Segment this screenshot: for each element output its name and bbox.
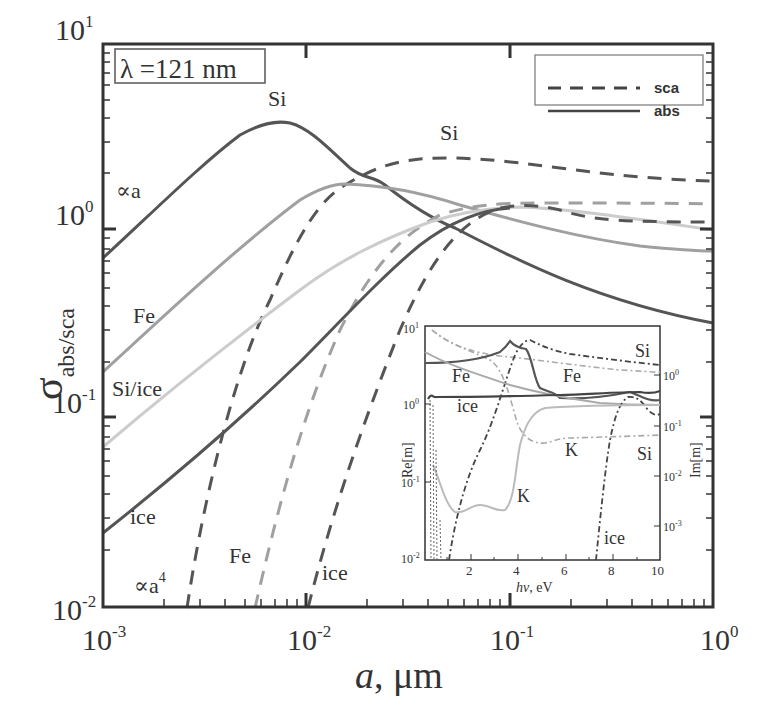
legend-abs-label: abs <box>654 102 680 119</box>
svg-text:101: 101 <box>55 12 94 46</box>
svg-text:ice: ice <box>604 528 625 548</box>
svg-text:4: 4 <box>513 563 520 578</box>
label-prop-a: ∝a <box>116 178 141 203</box>
legend-sca-label: sca <box>654 79 680 96</box>
svg-text:2: 2 <box>466 563 473 578</box>
svg-text:8: 8 <box>608 563 615 578</box>
svg-text:10-2: 10-2 <box>401 551 420 566</box>
label-si-abs: Si <box>268 86 286 111</box>
svg-text:10-1: 10-1 <box>490 622 534 656</box>
svg-text:10-3: 10-3 <box>82 622 126 656</box>
svg-text:6: 6 <box>561 563 568 578</box>
y-axis-title: σabs/sca <box>25 308 79 400</box>
label-ice-sca: ice <box>322 560 348 585</box>
label-si-ice: Si/ice <box>112 376 162 401</box>
svg-text:Si: Si <box>635 341 650 361</box>
inset-right-title: Im[m] <box>688 442 703 478</box>
svg-text:10: 10 <box>651 563 664 578</box>
svg-text:Fe: Fe <box>563 366 581 386</box>
svg-text:K: K <box>565 440 578 460</box>
x-axis-title: a, μm <box>355 654 443 696</box>
curve-labels: Si Si ∝a Fe Si/ice ice ∝a4 Fe ice <box>112 86 458 598</box>
inset-left-title: Re[m] <box>400 442 415 478</box>
label-si-sca: Si <box>440 120 458 145</box>
svg-text:100: 100 <box>663 368 679 383</box>
svg-text:10-3: 10-3 <box>663 519 682 534</box>
inset-x-title: hν, eV <box>516 580 553 595</box>
wavelength-annotation: λ =121 nm <box>120 54 237 84</box>
label-prop-a4: ∝a4 <box>134 570 166 598</box>
svg-text:10-2: 10-2 <box>52 592 96 626</box>
svg-text:Si: Si <box>637 444 652 464</box>
svg-text:Fe: Fe <box>452 366 470 386</box>
svg-text:10-2: 10-2 <box>663 469 682 484</box>
svg-text:10-1: 10-1 <box>663 419 682 434</box>
inset-chart: 2 4 6 8 10 101 100 10-1 10-2 100 10-1 10… <box>400 321 703 595</box>
svg-text:100: 100 <box>55 197 94 231</box>
chart-canvas: 101 100 10-1 10-2 10-3 10-2 10-1 100 a, … <box>0 0 766 709</box>
label-fe-sca: Fe <box>229 543 251 568</box>
svg-text:101: 101 <box>403 321 419 336</box>
x-tick-labels: 10-3 10-2 10-1 100 <box>82 622 739 656</box>
label-fe: Fe <box>133 303 155 328</box>
curve-si-abs <box>103 122 713 323</box>
svg-text:K: K <box>517 486 530 506</box>
legend: sca abs <box>535 55 703 119</box>
svg-text:100: 100 <box>403 397 419 412</box>
svg-text:σabs/sca: σabs/sca <box>25 308 79 400</box>
svg-text:10-2: 10-2 <box>287 622 331 656</box>
svg-text:ice: ice <box>457 396 478 416</box>
label-ice: ice <box>130 504 156 529</box>
svg-text:100: 100 <box>700 622 739 656</box>
